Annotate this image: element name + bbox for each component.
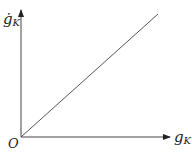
- y-axis-label: ġK: [3, 10, 21, 28]
- linear-line: [21, 14, 158, 137]
- x-axis-label: gK: [174, 128, 192, 146]
- phase-diagram: ġK gK O: [0, 0, 192, 158]
- origin-label: O: [8, 136, 19, 151]
